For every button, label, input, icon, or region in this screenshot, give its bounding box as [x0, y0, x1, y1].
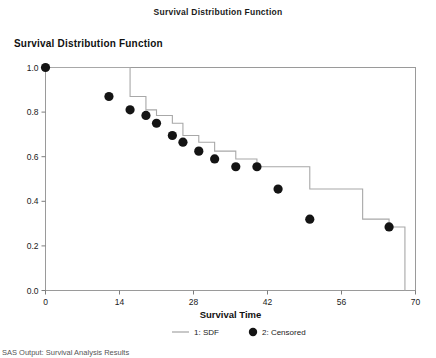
- sdf-step-line: [46, 68, 405, 291]
- censored-marker: [41, 63, 50, 72]
- censored-marker: [210, 154, 219, 163]
- chart-page: Survival Distribution Function Survival …: [0, 0, 436, 358]
- x-axis-tick-label: 0: [43, 297, 48, 307]
- y-axis-tick-label: 1.0: [27, 63, 39, 73]
- y-axis-tick-label: 0.4: [27, 196, 39, 206]
- censored-marker: [168, 131, 177, 140]
- x-axis-tick-label: 42: [263, 297, 273, 307]
- legend-label-sdf: 1: SDF: [194, 328, 219, 337]
- y-axis-tick-label: 0.2: [27, 241, 39, 251]
- y-axis-tick-label: 0.8: [27, 107, 39, 117]
- legend-dot-swatch: [249, 328, 257, 336]
- x-axis-tick-label: 14: [115, 297, 125, 307]
- survival-chart: 0.00.20.40.60.81.001428425670Survival Ti…: [0, 0, 436, 358]
- x-axis-tick-label: 70: [411, 297, 421, 307]
- censored-marker: [231, 162, 240, 171]
- censored-marker: [305, 215, 314, 224]
- censored-marker: [384, 222, 393, 231]
- censored-marker: [178, 138, 187, 147]
- censored-marker: [194, 147, 203, 156]
- censored-marker: [152, 119, 161, 128]
- y-axis-tick-label: 0.6: [27, 152, 39, 162]
- y-axis-tick-label: 0.0: [27, 286, 39, 296]
- legend-label-censored: 2: Censored: [262, 328, 306, 337]
- x-axis-tick-label: 56: [337, 297, 347, 307]
- censored-marker: [141, 111, 150, 120]
- censored-marker: [125, 105, 134, 114]
- x-axis-tick-label: 28: [189, 297, 199, 307]
- censored-marker: [104, 92, 113, 101]
- plot-frame: [46, 68, 416, 291]
- footer-text: SAS Output: Survival Analysis Results: [2, 350, 129, 357]
- footer-strip: SAS Output: Survival Analysis Results: [0, 350, 436, 358]
- x-axis-title: Survival Time: [200, 309, 262, 320]
- survival-chart-svg: 0.00.20.40.60.81.001428425670Survival Ti…: [0, 0, 436, 358]
- censored-marker: [252, 162, 261, 171]
- censored-marker: [273, 184, 282, 193]
